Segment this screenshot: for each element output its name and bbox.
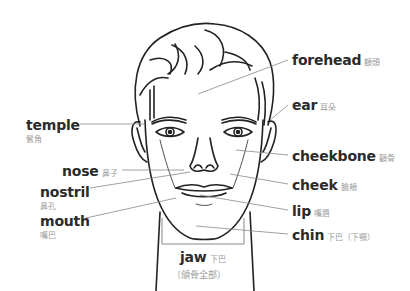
- label-mouth-zh: 嘴巴: [40, 232, 90, 240]
- label-ear-en: ear: [292, 97, 317, 113]
- label-forehead: forehead額頭: [292, 52, 380, 68]
- label-nostril-en: nostril: [40, 184, 90, 200]
- leader-mouth: [86, 198, 176, 218]
- label-ear: ear耳朵: [292, 97, 336, 113]
- label-temple: temple 鬢角: [26, 117, 80, 144]
- label-cheek-zh: 臉頰: [341, 183, 357, 192]
- mouth: [176, 185, 232, 188]
- label-cheek: cheek臉頰: [292, 177, 357, 193]
- label-forehead-zh: 額頭: [364, 58, 380, 67]
- label-nostril: nostril 鼻孔: [40, 184, 90, 211]
- label-jaw-zh: 下巴: [210, 255, 226, 264]
- label-mouth: mouth 嘴巴: [40, 213, 90, 240]
- neck-right: [250, 212, 254, 291]
- label-cheekbone: cheekbone顴骨: [292, 148, 395, 164]
- label-forehead-en: forehead: [292, 52, 361, 68]
- label-chin-zh: 下巴（下顎）: [327, 233, 375, 242]
- label-cheekbone-en: cheekbone: [292, 148, 376, 164]
- label-cheekbone-zh: 顴骨: [379, 154, 395, 163]
- label-nostril-zh: 鼻孔: [40, 203, 90, 211]
- leader-cheek: [230, 174, 288, 184]
- label-lip-en: lip: [292, 203, 311, 219]
- label-jaw-note: （頜骨全部）: [172, 268, 226, 281]
- label-mouth-en: mouth: [40, 213, 90, 229]
- neck-left: [156, 212, 160, 291]
- label-jaw: jaw下巴: [180, 249, 226, 265]
- face-contour: [145, 120, 263, 240]
- label-cheek-en: cheek: [292, 177, 338, 193]
- label-temple-zh: 鬢角: [26, 136, 80, 144]
- label-nose-en: nose: [62, 163, 99, 179]
- hair-outline: [135, 23, 273, 126]
- label-ear-zh: 耳朵: [320, 103, 336, 112]
- label-nose: nose鼻子: [62, 163, 118, 179]
- label-lip: lip嘴唇: [292, 203, 330, 219]
- label-chin: chin下巴（下顎）: [292, 227, 375, 243]
- label-temple-en: temple: [26, 117, 80, 133]
- label-jaw-en: jaw: [180, 249, 207, 265]
- label-lip-zh: 嘴唇: [314, 209, 330, 218]
- face-illustration: [0, 0, 410, 291]
- face-diagram: forehead額頭 ear耳朵 cheekbone顴骨 cheek臉頰 lip…: [0, 0, 410, 291]
- label-chin-en: chin: [292, 227, 324, 243]
- leader-lip: [200, 195, 288, 210]
- leader-forehead: [198, 60, 288, 94]
- leader-chin: [196, 226, 288, 234]
- label-nose-zh: 鼻子: [102, 169, 118, 178]
